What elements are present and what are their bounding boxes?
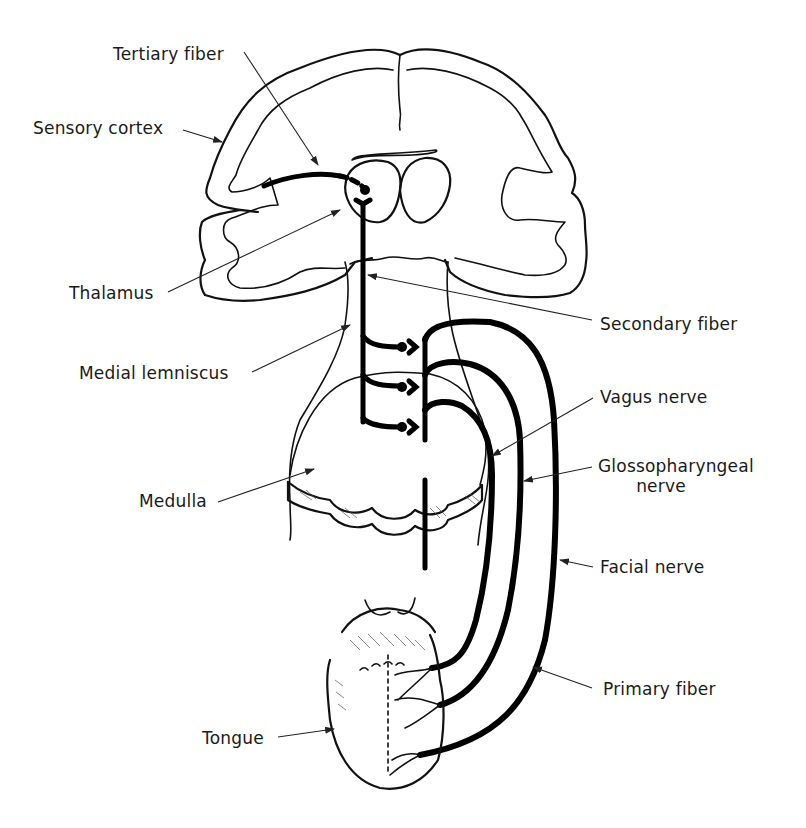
medulla-lobes	[288, 482, 482, 519]
pointer-medulla	[218, 469, 314, 502]
vagus-nerve	[425, 402, 492, 668]
central-pathway	[264, 174, 425, 568]
thalamus-left	[345, 161, 400, 223]
pointer-vagus-nerve	[492, 398, 593, 456]
branch-1	[363, 336, 400, 347]
thalamus-right	[400, 158, 450, 223]
label-glossopharyngeal-nerve: Glossopharyngeal nerve	[598, 456, 724, 496]
tongue	[327, 598, 443, 789]
epiglottis	[365, 598, 415, 615]
label-sensory-cortex: Sensory cortex	[33, 118, 163, 138]
cortex-inner-right	[407, 68, 566, 275]
pointer-tertiary-fiber	[244, 52, 318, 165]
pointer-facial-nerve	[560, 560, 593, 567]
label-secondary-fiber: Secondary fiber	[600, 314, 737, 334]
medulla-lower-rim	[288, 482, 482, 535]
label-glossopharyngeal-line1: Glossopharyngeal	[598, 456, 724, 476]
pointer-thalamus	[168, 210, 340, 292]
label-facial-nerve: Facial nerve	[600, 557, 704, 577]
label-glossopharyngeal-line2: nerve	[598, 476, 724, 496]
label-primary-fiber: Primary fiber	[603, 679, 716, 699]
branch-2	[363, 375, 400, 386]
tertiary-fiber-dashed	[340, 176, 364, 188]
longitudinal-fissure	[399, 55, 401, 130]
tongue-outline	[327, 635, 443, 789]
brain-outer-outline-right	[400, 50, 587, 297]
label-vagus-nerve: Vagus nerve	[600, 387, 708, 407]
label-medulla: Medulla	[139, 491, 207, 511]
tertiary-fiber	[264, 174, 340, 186]
thalamic-nucleus	[360, 185, 370, 195]
label-tertiary-fiber: Tertiary fiber	[113, 44, 224, 64]
label-medial-lemniscus: Medial lemniscus	[79, 363, 228, 383]
label-thalamus: Thalamus	[69, 283, 154, 303]
pointer-tongue	[278, 729, 334, 737]
tongue-nerve-branches	[390, 668, 440, 775]
brain-section	[200, 50, 587, 545]
pointer-secondary-fiber	[368, 275, 592, 320]
pointer-primary-fiber	[533, 667, 592, 688]
pointer-sensory-cortex	[183, 130, 222, 142]
cranial-nerves	[420, 321, 556, 755]
label-tongue: Tongue	[202, 728, 264, 748]
pointer-medial-lemniscus	[252, 325, 350, 372]
branch-3	[363, 418, 400, 427]
medulla	[288, 372, 486, 535]
